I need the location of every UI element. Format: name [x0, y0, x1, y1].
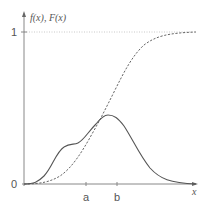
- y-axis: [22, 11, 26, 186]
- x-tick-a-label: a: [83, 191, 90, 203]
- pdf-curve: [24, 115, 196, 184]
- cdf-curve: [24, 32, 196, 184]
- y-tick-one-label: 1: [11, 26, 17, 38]
- x-tick-b-label: b: [114, 191, 120, 203]
- y-tick-zero-label: 0: [11, 178, 17, 190]
- y-axis-label: f(x), F(x): [30, 12, 67, 24]
- x-axis-label: x: [191, 186, 197, 197]
- y-axis-arrow-icon: [22, 11, 26, 17]
- x-axis: [22, 182, 198, 186]
- distribution-diagram: f(x), F(x) 1 0 a b x: [0, 0, 214, 214]
